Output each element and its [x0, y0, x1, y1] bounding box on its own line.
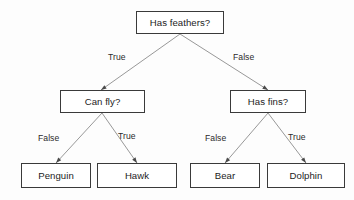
edge-label-canfly-false: False [38, 134, 59, 143]
node-bear: Bear [190, 163, 260, 188]
edge-canfly-false [56, 113, 102, 163]
edge-label-root-false: False [233, 53, 254, 62]
edge-label-canfly-true: True [118, 132, 136, 141]
node-can-fly-label: Can fly? [85, 97, 121, 107]
node-dolphin-label: Dolphin [290, 171, 323, 181]
node-bear-label: Bear [215, 171, 235, 181]
edge-root-false [180, 34, 268, 90]
node-root: Has feathers? [136, 11, 224, 34]
decision-tree-diagram: Has feathers? Can fly? Has fins? Penguin… [0, 0, 354, 200]
node-dolphin: Dolphin [267, 163, 345, 188]
node-can-fly: Can fly? [60, 90, 145, 113]
edge-root-true [101, 34, 180, 90]
edge-label-hasfins-false: False [205, 134, 226, 143]
node-hawk: Hawk [97, 163, 177, 188]
edge-label-hasfins-true: True [288, 133, 306, 142]
edge-hasfins-false [225, 113, 268, 163]
node-penguin-label: Penguin [38, 171, 74, 181]
node-root-label: Has feathers? [150, 18, 210, 28]
node-penguin: Penguin [21, 163, 91, 188]
node-has-fins: Has fins? [230, 90, 306, 113]
edge-label-root-true: True [108, 53, 126, 62]
node-has-fins-label: Has fins? [248, 97, 288, 107]
node-hawk-label: Hawk [125, 171, 149, 181]
